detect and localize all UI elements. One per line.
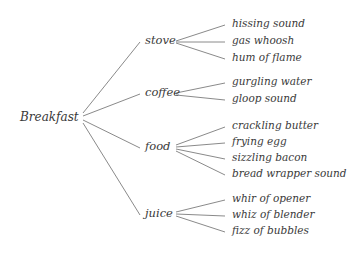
leaf-node: fizz of bubbles [232, 225, 309, 236]
root-node-breakfast: Breakfast [20, 111, 79, 123]
leaf-node: bread wrapper sound [232, 168, 347, 179]
branch-node-food: food [145, 141, 170, 153]
leaf-node: frying egg [232, 136, 287, 147]
leaf-node: gas whoosh [232, 35, 294, 46]
leaf-node: gloop sound [232, 93, 297, 104]
mind-map-canvas: Breakfast stove coffee food juice hissin… [0, 0, 354, 253]
branch-node-juice: juice [145, 208, 173, 220]
branch-node-coffee: coffee [145, 87, 180, 99]
leaf-node: hissing sound [232, 18, 305, 29]
branch-node-stove: stove [145, 35, 176, 47]
leaf-node: crackling butter [232, 120, 318, 131]
leaf-node: gurgling water [232, 76, 311, 87]
leaf-node: whiz of blender [232, 209, 315, 220]
leaf-node: whir of opener [232, 193, 310, 204]
leaf-node: hum of flame [232, 52, 302, 63]
leaf-node: sizzling bacon [232, 152, 307, 163]
